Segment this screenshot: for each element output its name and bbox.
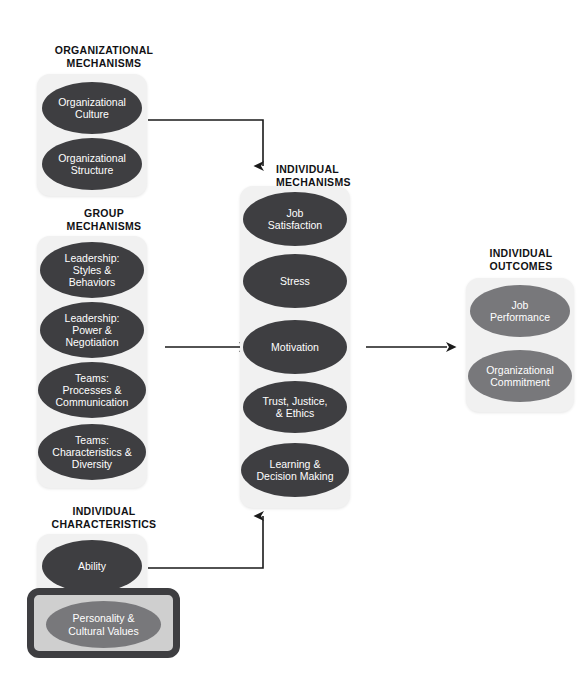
node-label: Ability (78, 560, 106, 572)
node-job-performance[interactable]: Job Performance (470, 285, 570, 337)
section-heading-organizational-mechanisms: ORGANIZATIONAL MECHANISMS (34, 44, 174, 69)
node-label: Teams: Characteristics & Diversity (52, 434, 131, 471)
node-stress[interactable]: Stress (243, 254, 347, 308)
node-organizational-structure[interactable]: Organizational Structure (42, 138, 142, 190)
node-teams-processes-communication[interactable]: Teams: Processes & Communication (38, 362, 146, 418)
connector-culture-to-individual-mechanisms (148, 120, 263, 166)
node-label: Leadership: Styles & Behaviors (65, 252, 120, 289)
node-ability[interactable]: Ability (42, 540, 142, 592)
section-heading-individual-mechanisms: INDIVIDUAL MECHANISMS (276, 163, 396, 188)
section-heading-individual-outcomes: INDIVIDUAL OUTCOMES (462, 247, 580, 272)
node-leadership-styles-behaviors[interactable]: Leadership: Styles & Behaviors (40, 242, 144, 298)
node-trust-justice-ethics[interactable]: Trust, Justice, & Ethics (243, 381, 347, 433)
node-label: Trust, Justice, & Ethics (263, 395, 328, 419)
node-leadership-power-negotiation[interactable]: Leadership: Power & Negotiation (40, 302, 144, 358)
node-organizational-culture[interactable]: Organizational Culture (42, 82, 142, 134)
node-label: Organizational Culture (58, 96, 126, 120)
node-label: Organizational Commitment (486, 364, 554, 388)
node-motivation[interactable]: Motivation (243, 320, 347, 374)
node-label: Organizational Structure (58, 152, 126, 176)
node-organizational-commitment[interactable]: Organizational Commitment (468, 350, 572, 402)
node-job-satisfaction[interactable]: Job Satisfaction (243, 192, 347, 246)
node-label: Motivation (271, 341, 319, 353)
node-learning-decision-making[interactable]: Learning & Decision Making (241, 443, 349, 497)
node-label: Teams: Processes & Communication (56, 372, 129, 409)
organizational-behavior-diagram: ORGANIZATIONAL MECHANISMS Organizational… (0, 0, 585, 691)
node-personality-cultural-values[interactable]: Personality & Cultural Values (46, 601, 161, 648)
highlight-personality-cultural-values[interactable]: Personality & Cultural Values (27, 588, 180, 658)
node-label: Job Performance (490, 299, 550, 323)
section-heading-group-mechanisms: GROUP MECHANISMS (34, 207, 174, 232)
node-label: Personality & Cultural Values (68, 612, 138, 636)
node-teams-characteristics-diversity[interactable]: Teams: Characteristics & Diversity (38, 424, 146, 480)
node-label: Leadership: Power & Negotiation (65, 312, 120, 349)
section-heading-individual-characteristics: INDIVIDUAL CHARACTERISTICS (26, 505, 182, 530)
node-label: Job Satisfaction (268, 207, 322, 231)
node-label: Learning & Decision Making (256, 458, 333, 482)
node-label: Stress (280, 275, 310, 287)
